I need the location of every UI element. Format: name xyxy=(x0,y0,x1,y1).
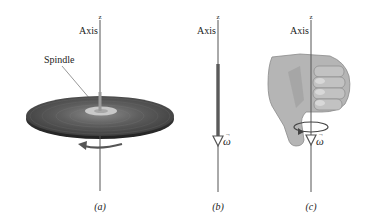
axis-label-b: Axis xyxy=(197,25,216,36)
omega-label-b: ω → xyxy=(223,131,231,147)
angular-velocity-vector-b xyxy=(216,64,219,136)
caption-a: (a) xyxy=(94,201,106,213)
axis-z-label-b: z xyxy=(216,13,219,21)
panel-c: z Axis ω → (c) xyxy=(268,13,350,213)
svg-text:→: → xyxy=(318,131,324,137)
vector-arrowhead-b xyxy=(213,136,223,146)
axis-label-a: Axis xyxy=(79,25,98,36)
axis-z-label-a: z xyxy=(98,13,101,21)
spindle-label: Spindle xyxy=(44,54,75,65)
caption-b: (b) xyxy=(212,201,224,213)
panel-a: z Axis Spindle (a) xyxy=(26,13,174,213)
spindle xyxy=(99,92,102,111)
disc xyxy=(26,92,174,139)
axis-z-label-c: z xyxy=(309,13,312,21)
omega-label-c: ω → xyxy=(316,131,324,147)
vector-arrowhead-c xyxy=(306,135,316,145)
svg-text:→: → xyxy=(225,131,231,137)
caption-c: (c) xyxy=(305,201,317,213)
axis-label-c: Axis xyxy=(290,25,309,36)
diagram-canvas: z Axis Spindle (a) z Axis xyxy=(0,0,370,224)
panel-b: z Axis ω → (b) xyxy=(197,13,231,213)
